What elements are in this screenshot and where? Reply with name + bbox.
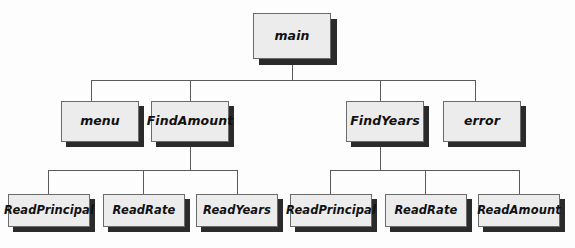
module-label-error: error	[464, 115, 500, 128]
module-box-readamount-2[interactable]: ReadAmount	[478, 194, 560, 227]
module-box-readprincipal-2[interactable]: ReadPrincipal	[290, 194, 372, 227]
module-box-findamount[interactable]: FindAmount	[151, 101, 229, 142]
module-box-readrate-2[interactable]: ReadRate	[385, 194, 467, 227]
bus-main-drop-1	[91, 80, 92, 101]
module-label-readrate-1: ReadRate	[113, 205, 176, 217]
bus-main-horizontal	[91, 80, 475, 81]
module-box-readprincipal-1[interactable]: ReadPrincipal	[8, 194, 90, 227]
module-label-readyears-1: ReadYears	[203, 205, 271, 217]
module-box-menu[interactable]: menu	[61, 101, 139, 142]
module-label-menu: menu	[80, 115, 120, 128]
bus-findyears-stem	[380, 147, 381, 170]
bus-findamount-drop-3	[237, 170, 238, 194]
module-label-readprincipal-1: ReadPrincipal	[4, 205, 94, 217]
bus-main-drop-3	[380, 80, 381, 101]
module-label-findyears: FindYears	[350, 115, 420, 128]
module-label-readamount-2: ReadAmount	[477, 205, 561, 217]
module-label-main: main	[274, 30, 309, 43]
bus-findamount-drop-2	[143, 170, 144, 194]
module-box-readrate-1[interactable]: ReadRate	[103, 194, 185, 227]
bus-main-drop-2	[190, 80, 191, 101]
module-box-findyears[interactable]: FindYears	[346, 101, 424, 142]
module-box-readyears-1[interactable]: ReadYears	[196, 194, 278, 227]
bus-findamount-drop-1	[48, 170, 49, 194]
bus-findyears-drop-2	[425, 170, 426, 194]
module-label-readrate-2: ReadRate	[395, 205, 458, 217]
module-label-findamount: FindAmount	[147, 115, 234, 128]
bus-main-drop-4	[475, 80, 476, 101]
bus-main-stem	[292, 64, 293, 80]
bus-findamount-stem	[190, 147, 191, 170]
bus-findyears-drop-3	[519, 170, 520, 194]
module-box-error[interactable]: error	[443, 101, 521, 142]
module-box-main[interactable]: main	[253, 13, 331, 59]
structure-chart-canvas: mainmenuFindAmountFindYearserrorReadPrin…	[0, 0, 575, 248]
bus-findyears-drop-1	[330, 170, 331, 194]
module-label-readprincipal-2: ReadPrincipal	[286, 205, 376, 217]
